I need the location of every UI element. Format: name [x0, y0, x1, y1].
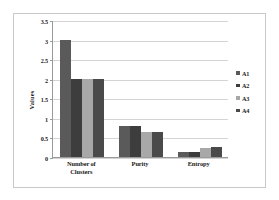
bar-group — [112, 21, 171, 157]
legend-label: A2 — [242, 82, 249, 89]
legend-swatch-icon — [236, 109, 240, 113]
bar-a1-3 — [178, 152, 189, 157]
legend-swatch-icon — [236, 84, 240, 88]
bar-a2-2 — [130, 126, 141, 157]
y-tick-label: 1.5 — [41, 96, 48, 103]
y-axis-title: Values — [28, 90, 35, 109]
y-tick-label: 0.5 — [41, 135, 48, 142]
bar-a3-3 — [200, 148, 211, 157]
bar-a4-1 — [93, 79, 104, 157]
chart-figure: Values 00.511.522.533.5 Number of Cluste… — [0, 0, 279, 200]
legend-label: A1 — [242, 70, 249, 77]
legend-item-a3[interactable]: A3 — [236, 95, 249, 101]
bar-a1-2 — [119, 126, 130, 157]
legend-swatch-icon — [236, 71, 240, 75]
bar-group — [53, 21, 112, 157]
bar-a2-3 — [189, 152, 200, 157]
y-tick-label: 1 — [45, 115, 48, 122]
x-tick-label: Entropy — [169, 160, 228, 168]
y-tick-label: 0 — [45, 155, 48, 162]
legend-item-a4[interactable]: A4 — [236, 108, 249, 114]
x-tick-label: Purity — [111, 160, 170, 168]
bar-a2-1 — [71, 79, 82, 157]
y-tick-label: 3 — [45, 37, 48, 44]
bar-a4-2 — [152, 132, 163, 157]
bar-a3-1 — [82, 79, 93, 157]
legend-label: A3 — [242, 95, 249, 102]
bar-a4-3 — [211, 147, 222, 157]
x-tick-label: Number of Clusters — [52, 160, 111, 176]
y-tick-label: 2 — [45, 76, 48, 83]
legend-item-a1[interactable]: A1 — [236, 70, 249, 76]
bar-group — [170, 21, 229, 157]
bar-a1-1 — [60, 40, 71, 157]
y-tick-mark — [50, 158, 53, 159]
bar-a3-2 — [141, 132, 152, 157]
gridline — [53, 158, 228, 159]
y-tick-label: 3.5 — [41, 18, 48, 25]
legend-swatch-icon — [236, 96, 240, 100]
legend-label: A4 — [242, 107, 249, 114]
y-tick-label: 2.5 — [41, 57, 48, 64]
legend-item-a2[interactable]: A2 — [236, 83, 249, 89]
chart-legend: A1A2A3A4 — [236, 70, 249, 114]
plot-area: 00.511.522.533.5 — [52, 21, 228, 158]
